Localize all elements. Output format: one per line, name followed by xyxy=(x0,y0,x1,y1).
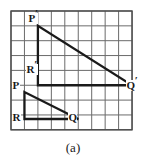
label-r: R xyxy=(12,112,21,123)
label-r-prime-mark: ′ xyxy=(34,58,37,70)
label-q-text: Q xyxy=(69,111,77,123)
label-q-prime-mark: ′ xyxy=(135,74,138,86)
label-p-prime-mark: ′ xyxy=(35,7,38,19)
figure-caption: (a) xyxy=(0,140,146,156)
label-p-text: P xyxy=(13,79,20,91)
label-r-text: R xyxy=(13,111,21,123)
geometry-figure-panel: P′ R′ P Q′ R Q (a) xyxy=(0,0,146,166)
label-p-prime: P′ xyxy=(28,13,38,24)
label-r-prime: R′ xyxy=(26,64,38,75)
label-q-prime-text: Q xyxy=(127,79,135,91)
label-q: Q xyxy=(68,112,77,123)
label-q-prime: Q′ xyxy=(126,80,138,91)
label-p: P xyxy=(12,80,20,91)
